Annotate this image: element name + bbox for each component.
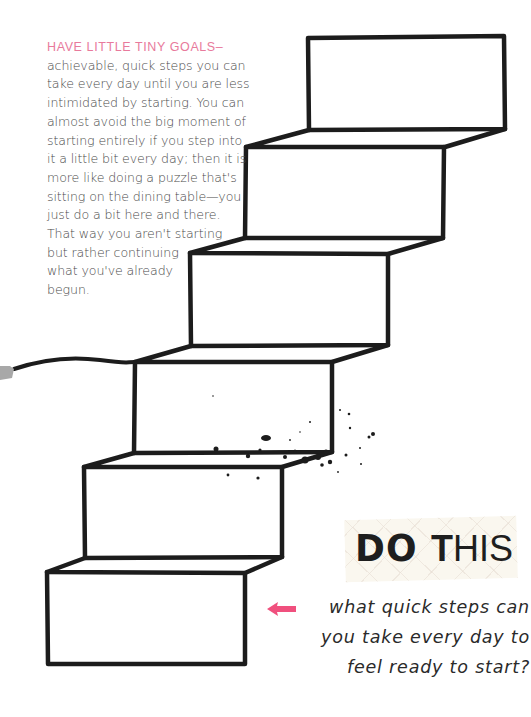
do-this-letters-his: HIS bbox=[453, 526, 513, 569]
intro-line: take every day until you are less bbox=[47, 75, 247, 94]
intro-line: more like doing a puzzle that's bbox=[47, 169, 247, 188]
prompt-line: you take every day to bbox=[300, 622, 530, 652]
do-this-prompt: what quick steps can you take every day … bbox=[300, 592, 530, 682]
left-arrow-icon bbox=[267, 601, 297, 617]
book-page: HAVE LITTLE TINY GOALS– achievable, quic… bbox=[0, 0, 531, 717]
intro-line: almost avoid the big moment of bbox=[47, 113, 247, 132]
intro-line: That way you aren't starting bbox=[47, 225, 247, 244]
intro-line: but rather continuing bbox=[47, 244, 247, 263]
intro-heading: HAVE LITTLE TINY GOALS– bbox=[47, 38, 247, 57]
page-tab bbox=[0, 366, 14, 380]
intro-line: begun. bbox=[47, 281, 247, 300]
do-this-word-do: DO bbox=[355, 526, 418, 569]
intro-line: intimidated by starting. You can bbox=[47, 94, 247, 113]
do-this-letter-t: T bbox=[431, 526, 453, 569]
intro-line: it a little bit every day; then it is bbox=[47, 150, 247, 169]
intro-paragraph: HAVE LITTLE TINY GOALS– achievable, quic… bbox=[47, 38, 247, 300]
do-this-word-this: THIS bbox=[431, 526, 513, 569]
prompt-line: what quick steps can bbox=[300, 592, 530, 622]
intro-line: starting entirely if you step into bbox=[47, 132, 247, 151]
do-this-title: DO THIS bbox=[355, 526, 513, 570]
intro-line: what you've already bbox=[47, 262, 247, 281]
intro-line: achievable, quick steps you can bbox=[47, 57, 247, 76]
intro-line: sitting on the dining table—you bbox=[47, 188, 247, 207]
intro-line: just do a bit here and there. bbox=[47, 206, 247, 225]
prompt-line: feel ready to start? bbox=[300, 652, 530, 682]
